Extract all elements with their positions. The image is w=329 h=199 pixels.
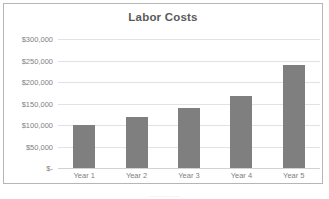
x-axis-tick-label: Year 4 — [231, 171, 252, 180]
y-axis-tick-label: $50,000 — [26, 142, 53, 151]
x-axis-tick-label: Year 2 — [126, 171, 147, 180]
x-axis-tick-label: Year 3 — [178, 171, 199, 180]
bar — [230, 96, 252, 168]
y-axis-tick-label: $250,000 — [22, 56, 53, 65]
bar — [283, 65, 305, 168]
x-axis: Year 1Year 2Year 3Year 4Year 5 — [58, 171, 320, 185]
y-axis-tick-label: $150,000 — [22, 99, 53, 108]
chart-container: Labor Costs $-$50,000$100,000$150,000$20… — [3, 3, 323, 184]
clipped-caption-text: ············· — [0, 192, 329, 199]
x-axis-tick-label: Year 5 — [283, 171, 304, 180]
y-axis-tick-label: $- — [46, 164, 53, 173]
bar — [178, 108, 200, 168]
bar-series — [58, 39, 320, 168]
x-axis-tick-label: Year 1 — [73, 171, 94, 180]
bar — [73, 125, 95, 168]
y-axis-tick-label: $300,000 — [22, 35, 53, 44]
bar — [126, 117, 148, 168]
y-axis: $-$50,000$100,000$150,000$200,000$250,00… — [4, 39, 56, 168]
axis-baseline — [58, 168, 320, 169]
chart-title: Labor Costs — [4, 11, 322, 23]
y-axis-tick-label: $200,000 — [22, 78, 53, 87]
y-axis-tick-label: $100,000 — [22, 121, 53, 130]
